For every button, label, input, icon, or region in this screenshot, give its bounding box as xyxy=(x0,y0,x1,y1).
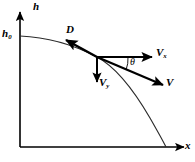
trajectory-curve xyxy=(20,36,166,147)
theta-arc xyxy=(126,57,128,70)
velocity-vector-label: V xyxy=(166,77,173,88)
drag-vector-label: D xyxy=(66,24,74,35)
x-axis-label: x xyxy=(185,140,191,151)
initial-height-label: h0 xyxy=(2,28,12,39)
vx-vector-label: Vx xyxy=(156,47,167,58)
drag-vector xyxy=(66,40,97,57)
theta-angle-label: θ xyxy=(130,57,135,67)
y-axis-label: h xyxy=(33,1,39,12)
physics-diagram: h h0 x D Vx Vy V θ xyxy=(0,0,195,162)
vy-vector-label: Vy xyxy=(99,77,109,88)
